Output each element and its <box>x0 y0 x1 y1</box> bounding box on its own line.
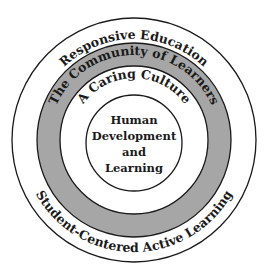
center-line-2: Development <box>92 129 177 143</box>
center-line-4: Learning <box>105 161 163 175</box>
center-circle <box>86 95 182 191</box>
center-line-1: Human <box>110 113 158 127</box>
center-line-3: and <box>122 145 146 159</box>
concentric-model-diagram: Responsive Education Student-Centered Ac… <box>0 0 266 280</box>
